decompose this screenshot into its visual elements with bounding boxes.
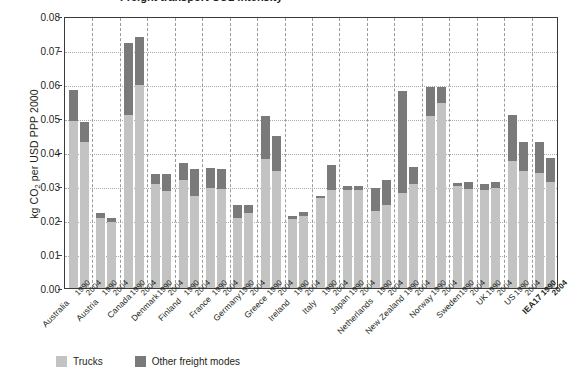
bar-canada-2004: [135, 37, 144, 288]
bar-segment-trucks: [217, 189, 226, 288]
bar-segment-other-freight-modes: [69, 90, 78, 121]
bar-us-1990: [508, 115, 517, 288]
group-separator: [257, 18, 258, 288]
y-tick-mark: [58, 187, 62, 188]
group-separator: [92, 18, 93, 288]
bar-norway-1990: [426, 87, 435, 288]
x-tick-label-country: France: [187, 293, 213, 319]
bar-segment-trucks: [437, 103, 446, 288]
bar-segment-trucks: [519, 171, 528, 288]
bar-italy-1990: [316, 196, 325, 288]
plot-area: [64, 17, 558, 289]
x-tick-label-country: Australia: [40, 298, 71, 329]
bar-segment-other-freight-modes: [206, 168, 215, 189]
group-separator: [285, 18, 286, 288]
group-separator: [449, 18, 450, 288]
bar-ireland-1990: [288, 216, 297, 288]
bar-netherlands-1990: [371, 188, 380, 288]
y-tick-mark: [58, 85, 62, 86]
bar-segment-trucks: [382, 205, 391, 288]
y-tick-label: 0.08: [2, 12, 60, 23]
y-axis-tick-labels: 0.000.010.020.030.040.050.060.070.08: [0, 17, 60, 289]
bar-segment-trucks: [409, 184, 418, 288]
bar-segment-trucks: [480, 190, 489, 288]
bar-australia-1990: [69, 90, 78, 288]
group-separator: [120, 18, 121, 288]
bar-segment-trucks: [371, 211, 380, 288]
bar-segment-other-freight-modes: [316, 196, 325, 198]
bar-segment-other-freight-modes: [162, 174, 171, 191]
bar-segment-other-freight-modes: [327, 165, 336, 190]
bar-denmark-1990: [151, 174, 160, 288]
group-separator: [175, 18, 176, 288]
y-tick-label: 0.03: [2, 182, 60, 193]
legend-swatch-other-freight-modes: [135, 356, 146, 367]
bar-segment-trucks: [354, 190, 363, 288]
bar-segment-other-freight-modes: [371, 188, 380, 210]
bar-greece-1990: [261, 116, 270, 288]
bar-segment-other-freight-modes: [96, 213, 105, 219]
bar-denmark-2004: [162, 174, 171, 288]
bar-segment-trucks: [96, 218, 105, 288]
bar-segment-trucks: [190, 196, 199, 288]
y-tick-label: 0.05: [2, 114, 60, 125]
y-tick-mark: [58, 17, 62, 18]
bar-france-1990: [206, 168, 215, 288]
bar-us-2004: [519, 142, 528, 288]
bar-segment-trucks: [80, 142, 89, 288]
bar-segment-trucks: [233, 218, 242, 288]
x-tick-label-country: Ireland: [266, 297, 292, 323]
bar-segment-other-freight-modes: [107, 218, 116, 222]
bar-segment-other-freight-modes: [480, 184, 489, 190]
legend-item-trucks: Trucks: [56, 356, 103, 367]
bar-canada-1990: [124, 43, 133, 288]
group-separator: [339, 18, 340, 288]
bar-segment-trucks: [261, 159, 270, 288]
bar-segment-other-freight-modes: [151, 174, 160, 184]
bar-segment-other-freight-modes: [453, 183, 462, 186]
bar-segment-trucks: [327, 190, 336, 288]
bar-segment-trucks: [288, 219, 297, 288]
bar-segment-trucks: [299, 216, 308, 288]
bar-uk-1990: [480, 184, 489, 288]
bar-segment-other-freight-modes: [491, 182, 500, 188]
bar-germany-1990: [233, 205, 242, 288]
bar-segment-other-freight-modes: [464, 182, 473, 189]
y-tick-mark: [58, 153, 62, 154]
bar-segment-trucks: [535, 173, 544, 288]
legend-label-other-freight-modes: Other freight modes: [152, 356, 240, 367]
group-separator: [532, 18, 533, 288]
bar-segment-trucks: [272, 171, 281, 288]
group-separator: [422, 18, 423, 288]
bar-netherlands-2004: [382, 180, 391, 288]
y-tick-mark: [58, 51, 62, 52]
chart-title-text: Freight transport CO2 intensity: [120, 0, 283, 3]
bar-segment-other-freight-modes: [244, 205, 253, 213]
bar-segment-other-freight-modes: [437, 87, 446, 103]
bar-norway-2004: [437, 87, 446, 288]
bar-segment-trucks: [343, 190, 352, 288]
group-separator: [312, 18, 313, 288]
bar-segment-trucks: [135, 85, 144, 288]
bar-segment-other-freight-modes: [409, 167, 418, 184]
bar-segment-trucks: [508, 161, 517, 289]
group-separator: [202, 18, 203, 288]
bar-segment-other-freight-modes: [190, 169, 199, 196]
legend-label-trucks: Trucks: [73, 356, 103, 367]
x-tick-label-country: Japan: [328, 293, 352, 317]
bar-new-zealand-2004: [409, 167, 418, 288]
bar-segment-other-freight-modes: [233, 205, 242, 217]
chart-legend: Trucks Other freight modes: [56, 356, 240, 367]
bar-iea17-2004: [546, 158, 555, 288]
bar-france-2004: [217, 169, 226, 288]
bar-segment-other-freight-modes: [343, 186, 352, 190]
bar-australia-2004: [80, 122, 89, 288]
y-tick-label: 0.07: [2, 46, 60, 57]
bar-segment-other-freight-modes: [80, 122, 89, 142]
y-tick-label: 0.02: [2, 216, 60, 227]
bar-segment-other-freight-modes: [272, 136, 281, 171]
y-tick-label: 0.01: [2, 250, 60, 261]
y-tick-mark: [58, 221, 62, 222]
bar-segment-other-freight-modes: [398, 91, 407, 193]
legend-item-other-freight-modes: Other freight modes: [135, 356, 240, 367]
